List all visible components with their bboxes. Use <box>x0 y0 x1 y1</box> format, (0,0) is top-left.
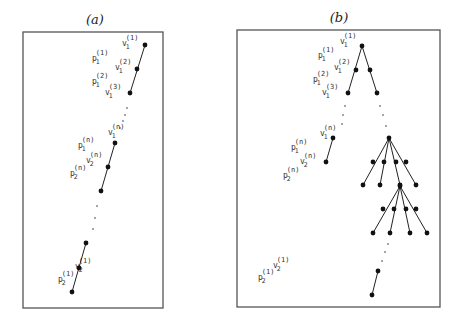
graph-node <box>394 160 399 165</box>
panel-b: v1(1)p1(1)v1(2)p1(2)v1(3)v1(n)p1(n)v2(n)… <box>258 32 429 297</box>
vertex-label: v1(n) <box>108 123 124 140</box>
vertex-label: v1(2) <box>334 58 350 75</box>
graph-edge <box>372 271 378 295</box>
graph-node <box>371 231 376 236</box>
vertex-label: p2(n) <box>70 164 86 181</box>
vertex-label: p1(1) <box>318 46 334 63</box>
graph-node <box>392 207 397 212</box>
vertex-label: p1(1) <box>92 49 108 66</box>
vertex-label: p2(1) <box>58 270 74 287</box>
graph-node <box>361 183 366 188</box>
panel-a-title: (a) <box>86 12 104 27</box>
graph-node <box>106 165 111 170</box>
vertex-label: p2(n) <box>283 166 299 183</box>
graph-node <box>404 207 409 212</box>
ellipsis-dot <box>341 123 343 125</box>
graph-node <box>371 160 376 165</box>
vertex-label: v2(1) <box>273 256 289 273</box>
graph-node <box>404 160 409 165</box>
ellipsis-dot <box>384 251 386 253</box>
vertex-label: v1(1) <box>122 34 138 51</box>
graph-node <box>113 141 118 146</box>
vertex-label: v1(2) <box>115 58 131 75</box>
graph-node <box>378 183 383 188</box>
graph-node <box>346 91 351 96</box>
ellipsis-dot <box>96 205 98 207</box>
ellipsis-dot <box>379 105 381 107</box>
vertex-label: v2(n) <box>300 152 316 169</box>
graph-node <box>143 43 148 48</box>
graph-node <box>360 44 365 49</box>
vertex-label: p2(1) <box>258 268 274 285</box>
vertex-label: v2(n) <box>86 151 102 168</box>
panel-a-frame <box>23 32 163 308</box>
panel-a: v1(1)p1(1)v1(2)p1(2)v1(3)v1(n)p1(n)v2(n)… <box>58 34 147 294</box>
graph-node <box>398 184 403 189</box>
ellipsis-dot <box>387 243 389 245</box>
graph-edge <box>326 138 333 162</box>
vertex-label: v1(1) <box>340 32 356 49</box>
ellipsis-dot <box>122 120 124 122</box>
graph-node <box>70 290 75 295</box>
vertex-label: v1(3) <box>105 83 121 100</box>
ellipsis-dot <box>126 107 128 109</box>
graph-node <box>77 266 82 271</box>
graph-node <box>382 160 387 165</box>
graph-edge <box>389 138 416 185</box>
graph-node <box>370 293 375 298</box>
graph-node <box>387 136 392 141</box>
vertex-label: v1(3) <box>322 83 338 100</box>
ellipsis-dot <box>124 114 126 116</box>
ellipsis-dot <box>381 260 383 262</box>
ellipsis-dot <box>385 125 387 127</box>
graph-node <box>408 231 413 236</box>
diagram-canvas: (a) (b) v1(1)p1(1)v1(2)p1(2)v1(3)v1(n)p1… <box>0 0 457 322</box>
graph-node <box>354 68 359 73</box>
ellipsis-dot <box>94 217 96 219</box>
graph-node <box>414 183 419 188</box>
graph-node <box>99 189 104 194</box>
graph-node <box>414 207 419 212</box>
graph-node <box>388 231 393 236</box>
graph-node <box>425 231 430 236</box>
graph-node <box>381 207 386 212</box>
graph-node <box>84 241 89 246</box>
panel-b-title: (b) <box>330 10 348 25</box>
vertex-label: p1(2) <box>92 72 108 89</box>
graph-node <box>324 160 329 165</box>
graph-node <box>135 67 140 72</box>
graph-node <box>376 269 381 274</box>
graph-node <box>368 68 373 73</box>
ellipsis-dot <box>382 114 384 116</box>
ellipsis-dot <box>119 127 121 129</box>
ellipsis-dot <box>344 105 346 107</box>
graph-node <box>128 91 133 96</box>
graph-node <box>375 91 380 96</box>
ellipsis-dot <box>92 228 94 230</box>
ellipsis-dot <box>342 114 344 116</box>
graph-node <box>331 136 336 141</box>
